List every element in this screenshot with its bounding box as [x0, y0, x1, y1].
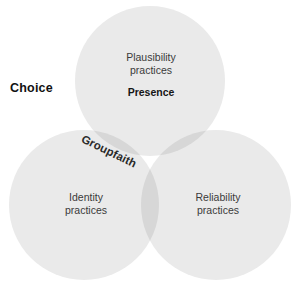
venn-diagram-figure: Choice Plausibilitypractices Presence Gr…: [0, 0, 300, 293]
venn-circles-graphic: [0, 0, 300, 293]
